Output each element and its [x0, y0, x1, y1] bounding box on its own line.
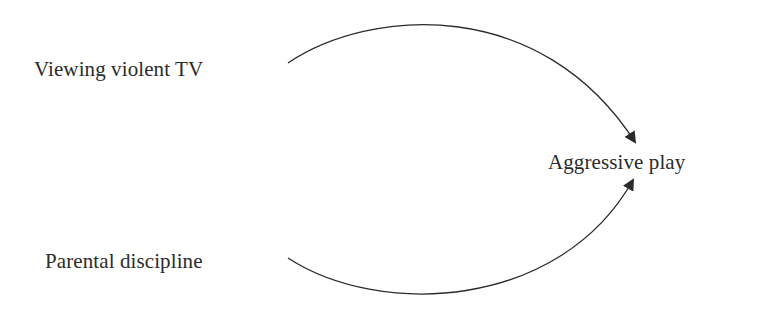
- edge-tv-to-aggressive-arrow: [288, 25, 635, 142]
- path-diagram: Viewing violent TV Aggressive play Paren…: [0, 0, 766, 317]
- node-viewing-violent-tv: Viewing violent TV: [34, 59, 203, 80]
- node-parental-discipline: Parental discipline: [45, 251, 203, 272]
- node-aggressive-play: Aggressive play: [548, 152, 685, 173]
- edge-discipline-to-aggressive-arrow: [288, 180, 633, 294]
